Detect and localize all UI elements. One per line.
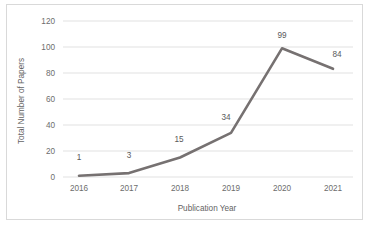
x-tick-label-2021: 2021 [324, 184, 343, 193]
y-tick-label-120: 120 [41, 17, 55, 26]
x-tick-label-2017: 2017 [120, 184, 139, 193]
x-axis-title: Publication Year [178, 204, 237, 213]
y-tick-label-60: 60 [46, 95, 56, 104]
series-line-total-number-of-papers [79, 48, 333, 175]
point-label-2016: 1 [77, 153, 82, 162]
y-axis-title: Total Number of Papers [17, 58, 26, 144]
x-tick-label-2019: 2019 [222, 184, 241, 193]
line-chart: 120 100 80 60 40 20 0 1 3 15 34 99 84 20… [7, 5, 364, 221]
x-tick-label-2020: 2020 [273, 184, 292, 193]
gridlines [63, 21, 353, 177]
y-tick-label-80: 80 [46, 69, 56, 78]
x-axis-ticks: 2016 2017 2018 2019 2020 2021 [70, 184, 343, 193]
y-tick-label-40: 40 [46, 121, 56, 130]
x-tick-label-2018: 2018 [171, 184, 190, 193]
y-tick-label-20: 20 [46, 147, 56, 156]
chart-container: 120 100 80 60 40 20 0 1 3 15 34 99 84 20… [6, 4, 363, 220]
point-label-2021: 84 [332, 50, 342, 59]
point-label-2019: 34 [221, 113, 231, 122]
point-label-2018: 15 [174, 135, 184, 144]
y-tick-label-100: 100 [41, 43, 55, 52]
point-label-2020: 99 [277, 31, 287, 40]
x-tick-label-2016: 2016 [70, 184, 89, 193]
y-axis-ticks: 120 100 80 60 40 20 0 [41, 17, 55, 182]
y-tick-label-0: 0 [50, 173, 55, 182]
point-label-2017: 3 [127, 151, 132, 160]
